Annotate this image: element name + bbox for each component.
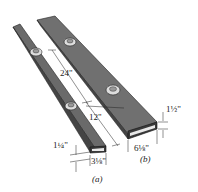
dim-12-label: 12" xyxy=(89,113,102,122)
tube-diagram: 24" 12" 1¼" 3⅛" 1½" 6⅛" (a) (b) xyxy=(0,0,198,192)
caption-b: (b) xyxy=(140,155,151,164)
dim-width-a-label: 3⅛" xyxy=(91,157,106,166)
dim-24-label: 24" xyxy=(60,69,73,78)
bolt-icon xyxy=(64,38,76,46)
dim-width-b-label: 6⅛" xyxy=(134,144,149,153)
caption-a: (a) xyxy=(92,175,103,184)
bolt-icon xyxy=(30,48,42,56)
bolt-icon xyxy=(65,102,77,110)
dim-height-b-label: 1½" xyxy=(166,105,181,114)
dim-height-a-label: 1¼" xyxy=(53,141,68,150)
bolt-icon xyxy=(106,85,120,95)
